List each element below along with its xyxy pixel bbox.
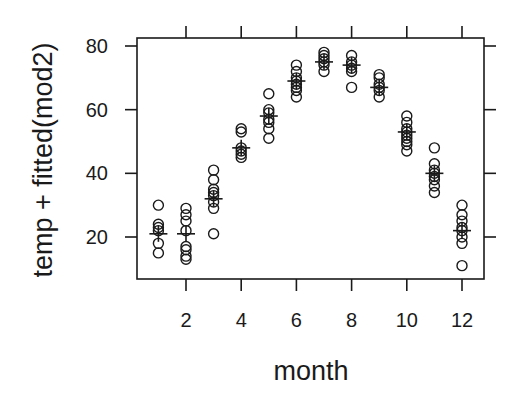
data-point bbox=[457, 200, 467, 210]
x-tick-label: 10 bbox=[396, 309, 418, 331]
y-axis-ticks-left bbox=[125, 46, 137, 237]
y-axis-ticks-right bbox=[484, 46, 496, 237]
data-point bbox=[291, 92, 301, 102]
mean-plus-marker bbox=[343, 57, 361, 73]
data-point bbox=[402, 146, 412, 156]
data-point bbox=[153, 248, 163, 258]
mean-plus-marker bbox=[177, 226, 195, 242]
data-point bbox=[209, 175, 219, 185]
y-tick-label: 80 bbox=[86, 35, 108, 57]
data-point bbox=[457, 261, 467, 271]
mean-plus-marker bbox=[315, 54, 333, 70]
y-tick-label: 40 bbox=[86, 162, 108, 184]
x-axis-ticks-top bbox=[186, 26, 462, 38]
data-point bbox=[429, 187, 439, 197]
y-axis-tick-labels: 20406080 bbox=[86, 35, 108, 248]
data-point bbox=[457, 238, 467, 248]
mean-plus-marker bbox=[149, 226, 167, 242]
data-point bbox=[209, 229, 219, 239]
x-axis-label: month bbox=[273, 356, 348, 386]
x-tick-label: 8 bbox=[346, 309, 357, 331]
y-axis-label: temp + fitted(mod2) bbox=[28, 43, 58, 278]
mean-plus-marker bbox=[425, 165, 443, 181]
data-point bbox=[181, 216, 191, 226]
data-point bbox=[153, 200, 163, 210]
mean-markers bbox=[149, 54, 471, 242]
data-points bbox=[153, 47, 467, 270]
x-tick-label: 4 bbox=[236, 309, 247, 331]
data-point bbox=[347, 82, 357, 92]
data-point bbox=[209, 165, 219, 175]
x-tick-label: 2 bbox=[180, 309, 191, 331]
scatter-plot: 24681012 20406080 month temp + fitted(mo… bbox=[0, 0, 522, 397]
mean-plus-marker bbox=[287, 73, 305, 89]
y-tick-label: 20 bbox=[86, 226, 108, 248]
mean-plus-marker bbox=[205, 191, 223, 207]
data-point bbox=[264, 124, 274, 134]
x-tick-label: 6 bbox=[291, 309, 302, 331]
mean-plus-marker bbox=[260, 108, 278, 124]
x-axis-ticks-bottom bbox=[186, 279, 462, 291]
mean-plus-marker bbox=[398, 124, 416, 140]
x-axis-tick-labels: 24681012 bbox=[180, 309, 473, 331]
data-point bbox=[429, 143, 439, 153]
mean-plus-marker bbox=[370, 79, 388, 95]
mean-plus-marker bbox=[232, 140, 250, 156]
mean-plus-marker bbox=[453, 223, 471, 239]
data-point bbox=[264, 89, 274, 99]
y-tick-label: 60 bbox=[86, 99, 108, 121]
data-point bbox=[264, 133, 274, 143]
x-tick-label: 12 bbox=[451, 309, 473, 331]
